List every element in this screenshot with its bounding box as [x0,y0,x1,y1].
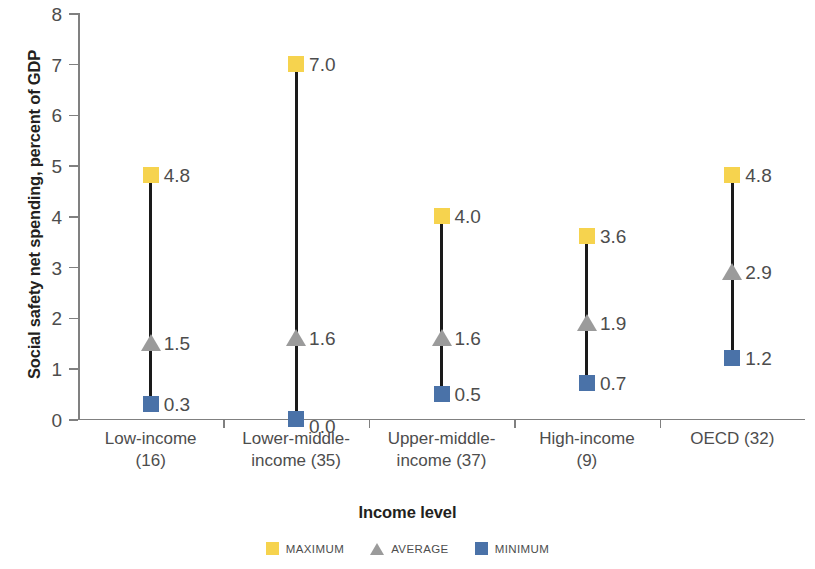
average-value-label: 1.5 [164,333,190,352]
maximum-value-label: 4.0 [455,207,481,226]
legend-label: AVERAGE [391,543,449,555]
maximum-marker[interactable] [579,228,595,244]
x-axis-category-label: Upper-middle- income (37) [369,428,514,473]
x-axis-category-label: OECD (32) [660,428,805,450]
x-axis-tick [514,419,516,428]
x-axis-line [78,419,805,421]
legend-label: MAXIMUM [286,543,344,555]
plot-area: 012345678 4.81.50.37.01.60.04.01.60.53.6… [78,13,805,419]
y-axis-tick-label: 0 [51,410,62,429]
legend-item[interactable]: MINIMUM [475,542,550,555]
minimum-value-label: 0.5 [455,384,481,403]
y-axis-line [78,13,80,419]
maximum-value-label: 4.8 [164,166,190,185]
average-value-label: 1.9 [600,313,626,332]
y-axis-tick-label: 6 [51,106,62,125]
maximum-marker[interactable] [143,167,159,183]
x-axis-category-label: Low-income (16) [78,428,223,473]
y-axis-tick-label: 3 [51,258,62,277]
average-marker[interactable] [577,314,597,331]
y-axis-tick: 7 [69,64,78,66]
y-axis-tick: 8 [69,13,78,15]
minimum-value-label: 0.7 [600,374,626,393]
minimum-marker[interactable] [143,396,159,412]
y-axis-tick: 6 [69,115,78,117]
avg-triangle-swatch [370,543,384,555]
maximum-marker[interactable] [434,208,450,224]
maximum-value-label: 7.0 [309,54,335,73]
maximum-marker[interactable] [288,56,304,72]
range-line [585,236,588,383]
legend-item[interactable]: MAXIMUM [266,542,344,555]
y-axis-tick-label: 1 [51,360,62,379]
minimum-value-label: 0.3 [164,394,190,413]
minimum-marker[interactable] [288,411,304,427]
y-axis-tick: 4 [69,216,78,218]
minimum-marker[interactable] [434,386,450,402]
x-axis-tick [369,419,371,428]
x-axis-title: Income level [0,503,815,522]
y-axis-tick: 1 [69,368,78,370]
min-square-swatch [475,542,488,555]
y-axis-tick: 3 [69,267,78,269]
y-axis-tick-label: 7 [51,55,62,74]
x-axis-tick [223,419,225,428]
average-marker[interactable] [432,329,452,346]
average-value-label: 1.6 [309,328,335,347]
y-axis-tick-label: 2 [51,309,62,328]
average-marker[interactable] [141,334,161,351]
y-axis-tick: 0 [69,419,78,421]
average-value-label: 1.6 [455,328,481,347]
average-marker[interactable] [286,329,306,346]
maximum-marker[interactable] [724,167,740,183]
y-axis-tick: 5 [69,165,78,167]
range-line [149,175,152,403]
minimum-marker[interactable] [579,375,595,391]
minimum-value-label: 1.2 [745,349,771,368]
average-marker[interactable] [722,263,742,280]
y-axis-tick-label: 5 [51,157,62,176]
legend-label: MINIMUM [495,543,550,555]
y-axis-tick-label: 4 [51,207,62,226]
range-line [440,216,443,394]
range-line [295,64,298,419]
maximum-value-label: 4.8 [745,166,771,185]
x-axis-category-label: High-income (9) [514,428,659,473]
average-value-label: 2.9 [745,262,771,281]
x-axis-tick [660,419,662,428]
legend-item[interactable]: AVERAGE [370,543,449,555]
chart-legend: MAXIMUMAVERAGEMINIMUM [0,542,815,555]
y-axis-tick-label: 8 [51,4,62,23]
maximum-value-label: 3.6 [600,227,626,246]
x-axis-category-label: Lower-middle- income (35) [223,428,368,473]
y-axis-tick: 2 [69,318,78,320]
max-square-swatch [266,542,279,555]
y-axis-title: Social safety net spending, percent of G… [25,5,44,425]
minimum-marker[interactable] [724,350,740,366]
chart-figure: Social safety net spending, percent of G… [0,0,815,569]
